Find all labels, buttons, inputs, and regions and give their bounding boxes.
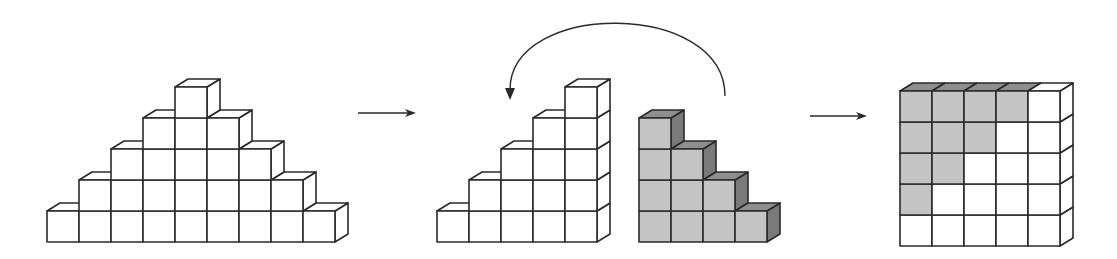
arrows: [358, 109, 867, 120]
gray-cube: [932, 122, 964, 153]
white-cube: [143, 180, 175, 211]
right-staircase-panel: [639, 110, 780, 242]
white-cube: [175, 149, 207, 180]
gray-cube: [703, 172, 748, 211]
white-cube: [239, 211, 271, 242]
white-cube: [996, 153, 1028, 184]
white-cube: [79, 211, 111, 242]
square-panel: [900, 83, 1073, 246]
white-cube: [239, 141, 284, 180]
white-cube: [207, 211, 239, 242]
white-cube: [932, 215, 964, 246]
white-cube: [996, 122, 1028, 153]
gray-cube: [639, 180, 671, 211]
white-cube: [175, 118, 207, 149]
white-cube: [565, 79, 610, 118]
left-staircase-panel: [437, 79, 610, 242]
gray-cube: [735, 203, 780, 242]
white-cube: [1028, 83, 1073, 122]
white-cube: [111, 211, 143, 242]
gray-cube: [639, 149, 671, 180]
white-cube: [207, 149, 239, 180]
white-cube: [533, 180, 565, 211]
gray-cube: [671, 141, 716, 180]
gray-cube: [639, 211, 671, 242]
odd-sum-diagram: [0, 0, 1117, 259]
white-cube: [143, 149, 175, 180]
white-cube: [143, 211, 175, 242]
white-cube: [175, 180, 207, 211]
white-cube: [175, 79, 220, 118]
gray-cube: [900, 122, 932, 153]
arrow-step-2-icon: [810, 112, 867, 120]
white-cube: [271, 172, 316, 211]
gray-cube: [964, 122, 996, 153]
gray-cube: [639, 110, 684, 149]
white-cube: [175, 211, 207, 242]
white-cube: [964, 215, 996, 246]
white-cube: [469, 211, 501, 242]
white-cube: [932, 184, 964, 215]
white-cube: [900, 215, 932, 246]
white-cube: [996, 215, 1028, 246]
white-cube: [964, 184, 996, 215]
white-cube: [533, 211, 565, 242]
arrow-step-1-icon: [358, 109, 416, 117]
white-cube: [501, 180, 533, 211]
gray-cube: [671, 211, 703, 242]
white-cube: [303, 203, 348, 242]
gray-cube: [932, 153, 964, 184]
white-cube: [533, 149, 565, 180]
white-cube: [501, 211, 533, 242]
white-cube: [111, 180, 143, 211]
gray-cube: [703, 211, 735, 242]
white-cube: [964, 153, 996, 184]
rotate-arrow-icon: [505, 23, 725, 100]
white-cube: [239, 180, 271, 211]
white-cube: [996, 184, 1028, 215]
white-cube: [207, 110, 252, 149]
gray-cube: [900, 184, 932, 215]
gray-cube: [671, 180, 703, 211]
white-cube: [207, 180, 239, 211]
pyramid-panel: [47, 79, 348, 242]
white-cube: [271, 211, 303, 242]
gray-cube: [900, 153, 932, 184]
